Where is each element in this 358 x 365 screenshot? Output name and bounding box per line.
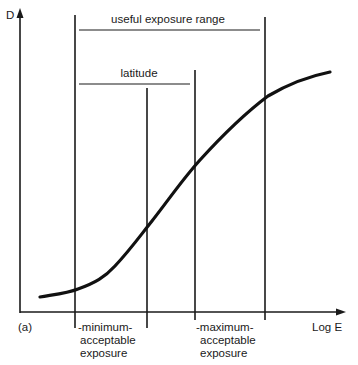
panel-label: (a) <box>18 321 32 333</box>
useful-range-label: useful exposure range <box>111 13 225 25</box>
y-axis-label: D <box>6 9 14 21</box>
x-axis-arrow-icon <box>336 309 346 316</box>
characteristic-curve <box>40 72 330 297</box>
max-label-line2: acceptable <box>200 334 256 346</box>
min-label-line1: -minimum- <box>78 321 132 333</box>
max-label-line1: -maximum- <box>196 321 254 333</box>
min-label-line3: exposure <box>80 347 127 359</box>
max-label-line3: exposure <box>200 347 247 359</box>
characteristic-curve-diagram: D Log E (a) useful exposure range latitu… <box>0 0 358 365</box>
min-label-line2: acceptable <box>80 334 136 346</box>
x-axis-label: Log E <box>312 321 342 333</box>
latitude-label: latitude <box>120 67 157 79</box>
y-axis-arrow-icon <box>17 8 24 18</box>
